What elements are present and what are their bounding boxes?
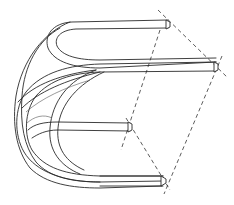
rod-frame-drawing xyxy=(0,0,234,205)
upper-middle-rod-end xyxy=(214,62,218,72)
dashed-line-right-to-bottom xyxy=(164,56,222,194)
upper-middle-rod xyxy=(17,62,218,182)
bottom-rod-end xyxy=(161,176,166,186)
outer-arch-rod xyxy=(15,22,162,188)
lower-middle-rod-end xyxy=(128,122,132,132)
top-rod-end xyxy=(166,20,170,29)
dashed-line-top-to-lower xyxy=(121,30,160,150)
lower-middle-rod xyxy=(26,116,132,138)
dashed-projection-lines xyxy=(121,10,228,194)
top-rod xyxy=(47,20,216,68)
